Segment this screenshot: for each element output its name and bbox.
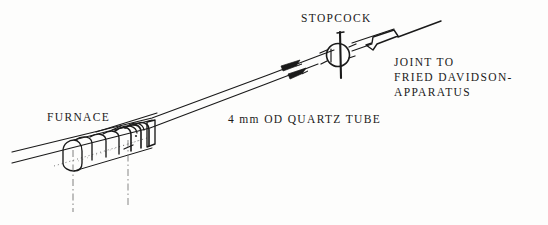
label-quartz-tube: 4 mm OD QUARTZ TUBE [228, 112, 381, 127]
stopcock-handle-top [337, 32, 344, 33]
furnace-shell-bottom [74, 148, 152, 171]
flow-arrow-upper [281, 60, 302, 71]
stopcock-assembly [320, 32, 356, 78]
furnace-extension-lines [73, 140, 128, 212]
label-joint-line-3: APPARATUS [394, 85, 513, 100]
label-joint-line-1: JOINT TO [394, 55, 513, 70]
stopcock-handle [340, 32, 341, 78]
label-joint-to-apparatus: JOINT TO FRIED DAVIDSON- APPARATUS [394, 55, 513, 100]
label-joint-line-2: FRIED DAVIDSON- [394, 70, 513, 85]
center-line-tick [135, 135, 137, 137]
quartz-tube-body [12, 21, 441, 163]
flow-arrow-lower [288, 68, 308, 79]
stopcock-barrel [327, 44, 350, 67]
label-furnace: FURNACE [47, 110, 110, 125]
tube-continuation-line [398, 21, 441, 37]
label-stopcock: STOPCOCK [301, 11, 372, 26]
apparatus-diagram: STOPCOCK FURNACE 4 mm OD QUARTZ TUBE JOI… [0, 0, 548, 225]
